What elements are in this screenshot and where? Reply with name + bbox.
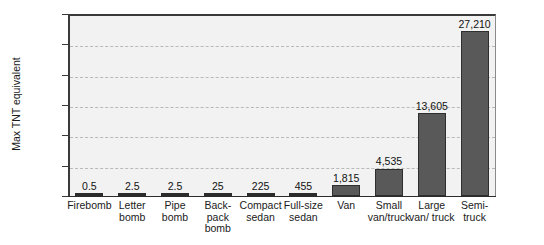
x-category-label-line: sedan (275, 212, 331, 224)
x-category-label-line: Semi- (447, 200, 503, 212)
bar[interactable] (161, 193, 189, 196)
bar-chart: Max TNT equivalent 05,00010,00015,00020,… (0, 0, 544, 245)
bar-slot (111, 14, 154, 196)
bar-slot (239, 14, 282, 196)
bar[interactable] (75, 193, 103, 196)
bar[interactable] (461, 31, 489, 196)
bar[interactable] (418, 113, 446, 196)
bar[interactable] (204, 193, 232, 196)
bar-slot (453, 14, 496, 196)
x-axis-line (68, 196, 496, 197)
bar-value-label: 27,210 (445, 18, 505, 30)
bar-slot (154, 14, 197, 196)
bar-slot (282, 14, 325, 196)
x-category-label-line: truck (447, 212, 503, 224)
bar-slot (68, 14, 111, 196)
bar[interactable] (375, 169, 403, 197)
x-category-label: Semi-truck (447, 200, 503, 223)
y-axis-title: Max TNT equivalent (10, 14, 22, 194)
bar[interactable] (118, 193, 146, 196)
bar-slot (325, 14, 368, 196)
bar[interactable] (247, 193, 275, 196)
bar-slot (196, 14, 239, 196)
y-tick-mark (62, 196, 68, 197)
bar[interactable] (289, 193, 317, 196)
x-category-label-line: bomb (190, 223, 246, 235)
bar[interactable] (332, 185, 360, 196)
